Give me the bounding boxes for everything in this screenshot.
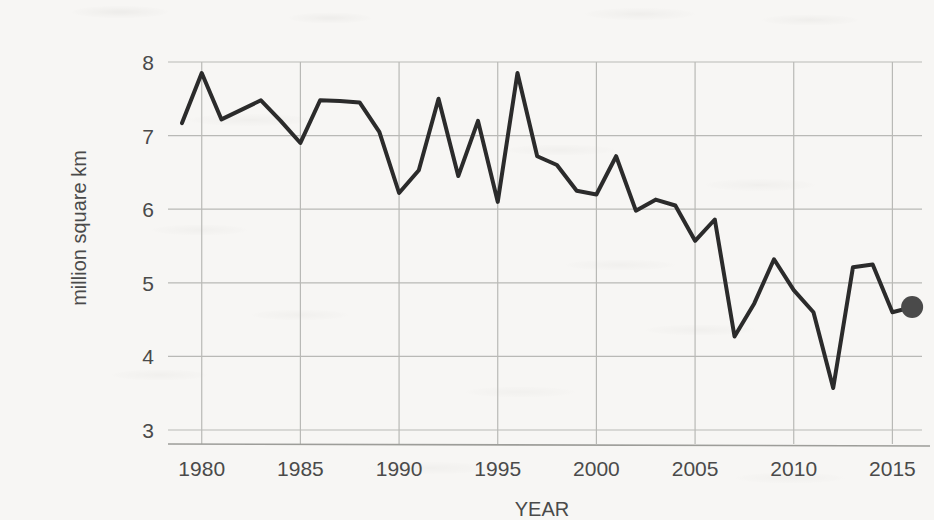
x-axis-tick-label: 1985 (277, 457, 324, 480)
highlight-point-marker (901, 296, 923, 318)
chart-canvas: 34567819801985199019952000200520102015mi… (40, 16, 934, 520)
grid-layer (168, 62, 930, 446)
x-axis-tick-label: 2005 (672, 457, 719, 480)
x-axis-tick-label: 1980 (178, 457, 225, 480)
x-axis-tick-label: 2000 (573, 457, 620, 480)
y-axis-title: million square km (68, 150, 90, 306)
x-axis-tick-label: 2010 (770, 457, 817, 480)
y-axis-tick-label: 5 (142, 272, 154, 295)
x-axis-tick-label: 2015 (869, 457, 916, 480)
y-axis-tick-label: 8 (142, 51, 154, 74)
y-axis-tick-label: 3 (142, 419, 154, 442)
y-axis-tick-label: 7 (142, 125, 154, 148)
sea-ice-extent-line-chart: 34567819801985199019952000200520102015mi… (40, 16, 882, 499)
y-axis-tick-label: 6 (142, 198, 154, 221)
x-axis-baseline (168, 444, 930, 446)
y-axis-tick-label: 4 (142, 345, 154, 368)
x-axis-tick-label: 1990 (376, 457, 423, 480)
data-series-line (182, 73, 912, 388)
x-axis-tick-label: 1995 (474, 457, 521, 480)
x-axis-title: YEAR (515, 498, 569, 520)
